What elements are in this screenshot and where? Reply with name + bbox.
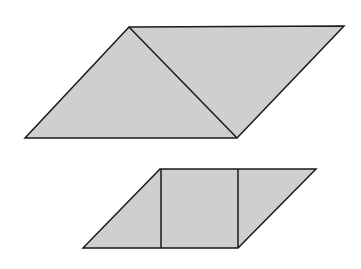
top-parallelogram-outline bbox=[25, 26, 344, 138]
bottom-parallelogram-outline bbox=[83, 169, 316, 248]
top-parallelogram bbox=[25, 26, 344, 138]
diagram-canvas bbox=[0, 0, 361, 269]
bottom-parallelogram bbox=[83, 169, 316, 248]
